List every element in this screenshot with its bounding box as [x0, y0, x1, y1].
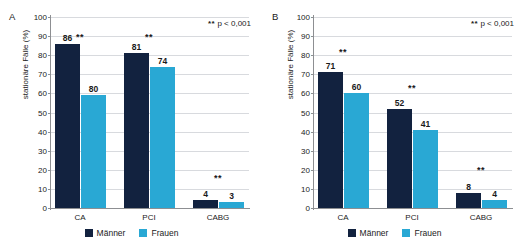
panel-a-significance-cabg: ** — [214, 174, 222, 183]
panel-b-value-frauen-pci: 41 — [421, 119, 430, 129]
panel-b-significance-cabg: ** — [477, 166, 485, 175]
panel-a-value-frauen-pci: 74 — [158, 56, 167, 66]
panel-b-value-maenner-cabg: 8 — [466, 182, 471, 192]
legend-swatch-frauen-icon — [139, 229, 147, 237]
ytick-label: 40 — [301, 127, 310, 136]
panel-a-legend-label-frauen: Frauen — [151, 228, 178, 238]
ytick-label: 10 — [301, 184, 310, 193]
panel-a-bar-maenner-pci[interactable]: 81 — [124, 53, 149, 208]
panel-a-bar-maenner-ca[interactable]: 86 — [55, 44, 80, 208]
panel-b-xtick-ca: CA — [337, 213, 348, 222]
panel-b-bar-frauen-cabg[interactable]: 4 — [482, 200, 507, 208]
panel-b-value-frauen-ca: 60 — [352, 82, 361, 92]
panel-a-value-maenner-ca: 86 — [63, 33, 72, 43]
ytick-label: 80 — [38, 51, 47, 60]
panel-b-legend-item-frauen[interactable]: Frauen — [402, 228, 441, 238]
ytick-label: 100 — [297, 13, 310, 22]
panel-b-legend: Männer Frauen — [263, 228, 526, 238]
panel-a-bar-maenner-cabg[interactable]: 4 — [193, 200, 218, 208]
panel-b-plot-area: 100 90 80 70 60 50 40 30 20 10 0 ** 71 6… — [314, 17, 512, 208]
gridline-0: 0 — [314, 208, 512, 209]
ytick-label: 50 — [38, 108, 47, 117]
ytick-label: 0 — [306, 204, 310, 213]
panel-a-xtick-ca: CA — [74, 213, 85, 222]
panel-b-legend-label-frauen: Frauen — [414, 228, 441, 238]
ytick-label: 20 — [38, 165, 47, 174]
panel-a-value-frauen-cabg: 3 — [229, 191, 234, 201]
legend-swatch-maenner-icon — [348, 229, 356, 237]
panel-a-legend-label-maenner: Männer — [97, 228, 126, 238]
gridline-0: 0 — [51, 208, 249, 209]
panel-a-xtick-pci: PCI — [142, 213, 155, 222]
panel-a-value-frauen-ca: 80 — [89, 84, 98, 94]
figure-container: A stationäre Fälle (%) ** p < 0,001 100 … — [0, 0, 526, 246]
panel-a-bar-frauen-ca[interactable]: 80 — [81, 95, 106, 208]
panel-a-legend-item-maenner[interactable]: Männer — [85, 228, 126, 238]
panel-a-significance-pci: ** — [145, 33, 153, 42]
panel-a-y-axis-title: stationäre Fälle (%) — [21, 0, 30, 140]
ytick-label: 10 — [38, 184, 47, 193]
panel-b-value-maenner-ca: 71 — [326, 61, 335, 71]
panel-b-significance-ca: ** — [339, 48, 347, 57]
panel-a-value-maenner-cabg: 4 — [203, 189, 208, 199]
panel-b-bar-maenner-ca[interactable]: 71 — [318, 72, 343, 208]
panel-a-letter: A — [9, 11, 16, 22]
panel-b-xtick-pci: PCI — [405, 213, 418, 222]
panel-a-legend-item-frauen[interactable]: Frauen — [139, 228, 178, 238]
panel-b-bar-maenner-pci[interactable]: 52 — [387, 109, 412, 208]
ytick-label: 60 — [38, 89, 47, 98]
ytick-label: 80 — [301, 51, 310, 60]
ytick-label: 50 — [301, 108, 310, 117]
ytick-label: 60 — [301, 89, 310, 98]
ytick-label: 100 — [34, 13, 47, 22]
panel-b-xtick-cabg: CABG — [470, 213, 493, 222]
ytick-label: 0 — [43, 204, 47, 213]
ytick-label: 90 — [38, 32, 47, 41]
panel-a-plot-area: 100 90 80 70 60 50 40 30 20 10 0 ** 86 8… — [51, 17, 249, 208]
panel-b-y-axis-title: stationäre Fälle (%) — [286, 0, 295, 140]
ytick-label: 90 — [301, 32, 310, 41]
panel-b: B stationäre Fälle (%) ** p < 0,001 100 … — [263, 0, 526, 246]
panel-a-bar-frauen-pci[interactable]: 74 — [150, 67, 175, 208]
panel-a-bar-frauen-cabg[interactable]: 3 — [219, 202, 244, 208]
panel-b-letter: B — [272, 11, 279, 22]
legend-swatch-frauen-icon — [402, 229, 410, 237]
ytick-label: 30 — [38, 146, 47, 155]
panel-b-group-pci: ** 52 41 PCI — [387, 17, 438, 208]
panel-a-xtick-cabg: CABG — [207, 213, 230, 222]
panel-b-value-frauen-cabg: 4 — [492, 189, 497, 199]
panel-b-legend-item-maenner[interactable]: Männer — [348, 228, 389, 238]
panel-a-legend: Männer Frauen — [0, 228, 263, 238]
panel-a: A stationäre Fälle (%) ** p < 0,001 100 … — [0, 0, 263, 246]
panel-b-legend-label-maenner: Männer — [360, 228, 389, 238]
panel-b-value-maenner-pci: 52 — [395, 98, 404, 108]
legend-swatch-maenner-icon — [85, 229, 93, 237]
panel-b-group-cabg: ** 8 4 CABG — [456, 17, 507, 208]
ytick-label: 30 — [301, 146, 310, 155]
panel-a-significance-ca: ** — [76, 33, 84, 42]
ytick-label: 40 — [38, 127, 47, 136]
ytick-label: 70 — [301, 70, 310, 79]
panel-b-group-ca: ** 71 60 CA — [318, 17, 369, 208]
panel-b-bar-frauen-ca[interactable]: 60 — [344, 93, 369, 208]
panel-a-group-pci: ** 81 74 PCI — [124, 17, 175, 208]
panel-b-bar-maenner-cabg[interactable]: 8 — [456, 193, 481, 208]
panel-b-significance-pci: ** — [408, 84, 416, 93]
panel-a-group-ca: ** 86 80 CA — [55, 17, 106, 208]
ytick-label: 70 — [38, 70, 47, 79]
ytick-label: 20 — [301, 165, 310, 174]
panel-a-group-cabg: ** 4 3 CABG — [193, 17, 244, 208]
panel-a-value-maenner-pci: 81 — [132, 42, 141, 52]
panel-b-bar-frauen-pci[interactable]: 41 — [413, 130, 438, 208]
